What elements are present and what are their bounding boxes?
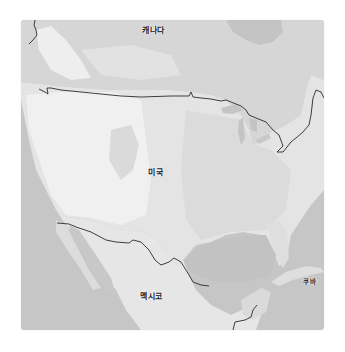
label-cuba[interactable]: 쿠바 (303, 276, 316, 286)
label-canada[interactable]: 캐나다 (142, 24, 165, 35)
map-viewport[interactable]: 캐나다 미국 멕시코 쿠바 (21, 20, 324, 330)
label-usa[interactable]: 미국 (148, 166, 163, 177)
map-canvas[interactable] (21, 20, 324, 330)
label-mexico[interactable]: 멕시코 (140, 290, 163, 301)
